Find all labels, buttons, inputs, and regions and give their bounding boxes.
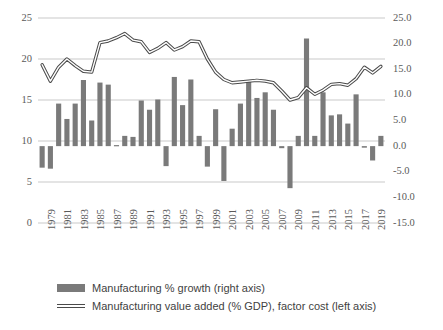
legend-item-bar: Manufacturing % growth (right axis) [0,282,443,294]
x-axis-tick-label: 1983 [80,209,91,230]
chart-bar [370,146,375,160]
chart-bar [122,136,127,146]
chart-bar [238,104,243,147]
chart-bar [230,129,235,146]
chart-bar [254,98,259,146]
chart-legend: Manufacturing % growth (right axis) Manu… [0,282,443,318]
chart-bar [172,77,177,146]
chart-bar [271,110,276,146]
legend-item-label: Manufacturing % growth (right axis) [92,282,265,294]
right-axis-tick-label: 20.0 [393,38,411,49]
chart-bar [312,136,317,146]
chart-bar [73,104,78,147]
right-axis-tick-label: 10.0 [393,89,411,100]
left-axis-tick-label: 20 [6,54,32,65]
chart-bar [213,109,218,146]
x-axis-tick-label: 1993 [162,209,173,230]
chart-bar [197,136,202,146]
chart-bar [114,145,119,146]
chart-container: 0510152025 -15.0-10.0-5.00.05.010.015.02… [0,0,443,330]
x-axis-tick-label: 2013 [328,209,339,230]
chart-bar [155,99,160,146]
x-axis-tick-label: 1991 [146,209,157,230]
chart-bar [221,146,226,181]
chart-bar [97,83,102,147]
chart-bar [106,85,111,147]
right-axis-tick-label: -10.0 [393,192,415,203]
right-axis-tick-label: -5.0 [393,166,410,177]
chart-line-inner [42,34,381,100]
left-axis-tick-label: 10 [6,136,32,147]
chart-bar [263,92,268,146]
chart-bar [139,101,144,147]
x-axis-tick-label: 2015 [344,209,355,230]
chart-plot-area [0,0,443,330]
x-axis-tick-label: 1979 [47,209,58,230]
left-axis-tick-label: 15 [6,95,32,106]
chart-bar [188,80,193,147]
chart-bar [205,146,210,167]
chart-bar [287,146,292,188]
right-axis-tick-label: 5.0 [393,115,406,126]
chart-bar [147,110,152,146]
right-axis-tick-label: 0.0 [393,141,406,152]
chart-bar [246,81,251,147]
chart-bar [279,146,284,148]
chart-bar [81,80,86,146]
x-axis-tick-label: 2017 [361,209,372,230]
x-axis-tick-label: 1981 [63,209,74,230]
chart-bar [296,136,301,146]
legend-bar-swatch-icon [57,284,85,292]
x-axis-tick-label: 1987 [113,209,124,230]
chart-bar [64,119,69,146]
chart-bar [180,105,185,146]
x-axis-tick-label: 2019 [377,209,388,230]
right-axis-tick-label: 25.0 [393,13,411,24]
left-axis-tick-label: 5 [6,177,32,188]
x-axis-tick-label: 2005 [261,209,272,230]
legend-item-line: Manufacturing value added (% GDP), facto… [0,300,443,312]
x-axis-tick-label: 1997 [195,209,206,230]
x-axis-tick-label: 2003 [245,209,256,230]
chart-bar [320,92,325,146]
x-axis-tick-label: 2009 [294,209,305,230]
chart-bar [337,114,342,146]
left-axis-tick-label: 0 [6,218,32,229]
chart-bar [48,146,53,169]
x-axis-tick-label: 2001 [228,209,239,230]
chart-bar [329,115,334,146]
x-axis-tick-label: 1995 [179,209,190,230]
chart-bar [40,146,45,168]
legend-line-swatch-icon [57,302,85,310]
chart-bar [164,146,169,166]
chart-bar [56,104,61,147]
chart-bar [89,121,94,147]
chart-bar [354,94,359,146]
x-axis-tick-label: 2011 [311,209,322,230]
right-axis-tick-label: -15.0 [393,218,415,229]
x-axis-tick-label: 1999 [212,209,223,230]
left-axis-tick-label: 25 [6,13,32,24]
x-axis-tick-label: 1985 [96,209,107,230]
chart-bar [130,137,135,146]
chart-bar [345,124,350,147]
right-axis-tick-label: 15.0 [393,64,411,75]
x-axis-tick-label: 2007 [278,209,289,230]
chart-bar [378,136,383,146]
chart-bar [362,146,367,148]
x-axis-tick-label: 1989 [129,209,140,230]
legend-item-label: Manufacturing value added (% GDP), facto… [92,300,376,312]
